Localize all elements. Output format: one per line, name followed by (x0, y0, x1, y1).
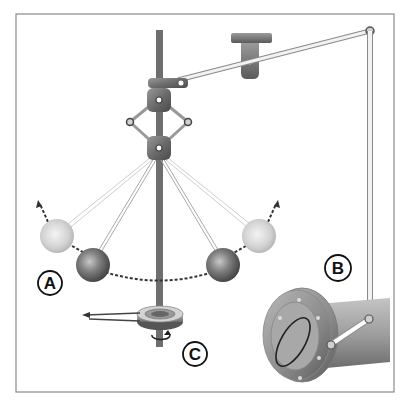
label-c: C (189, 345, 201, 364)
lower-collar (147, 136, 171, 160)
governor-diagram: A B C (0, 0, 416, 410)
label-c-badge: C (183, 342, 207, 366)
label-b: B (332, 259, 344, 278)
upper-collar (147, 88, 171, 112)
flyball-right-raised (242, 219, 276, 253)
governor-spindle (156, 30, 163, 347)
flyball-left-raised (40, 219, 74, 253)
sliding-sleeve-arm (148, 78, 188, 88)
label-a-badge: A (38, 271, 62, 295)
flyball-left-lowered (76, 248, 110, 282)
flyball-right-lowered (206, 248, 240, 282)
drive-pulley (137, 306, 183, 330)
label-a: A (44, 274, 56, 293)
label-b-badge: B (325, 255, 351, 281)
